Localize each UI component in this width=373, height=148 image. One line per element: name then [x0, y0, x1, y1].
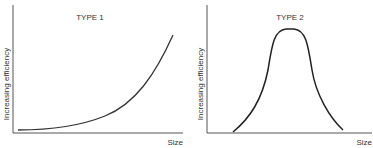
chart-title: TYPE 2	[276, 13, 304, 22]
efficiency-curve	[18, 35, 173, 130]
x-axis-label: Size	[356, 138, 372, 147]
y-axis-label: Increasing efficiency	[196, 48, 205, 120]
efficiency-curve	[233, 29, 343, 132]
x-axis-label: Size	[167, 138, 183, 147]
diagram-canvas: TYPE 1 Size Increasing efficiency TYPE 2…	[0, 0, 373, 148]
chart-type-2: TYPE 2 Size Increasing efficiency	[196, 5, 373, 147]
chart-type-1: TYPE 1 Size Increasing efficiency	[2, 5, 184, 147]
y-axis-label: Increasing efficiency	[2, 48, 11, 120]
chart-title: TYPE 1	[76, 13, 104, 22]
